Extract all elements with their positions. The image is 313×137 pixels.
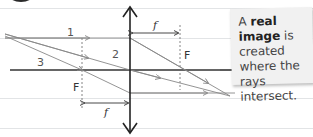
ray-3-through-focus bbox=[82, 70, 130, 93]
focal-length-label-bottom: f bbox=[103, 106, 110, 119]
ray-2-arrow-after bbox=[130, 70, 160, 78]
focal-point-left-label: F bbox=[73, 81, 79, 94]
ray-1-arrow bbox=[130, 38, 208, 83]
focal-point-right-label: F bbox=[184, 49, 190, 62]
annotation-note: A real image is created where the rays i… bbox=[230, 7, 313, 85]
ray-label-2: 2 bbox=[112, 48, 119, 61]
note-prefix: A bbox=[238, 15, 250, 29]
focal-length-label-top: f bbox=[152, 19, 159, 32]
ray-label-3: 3 bbox=[37, 56, 44, 69]
ray-label-1: 1 bbox=[67, 26, 74, 39]
